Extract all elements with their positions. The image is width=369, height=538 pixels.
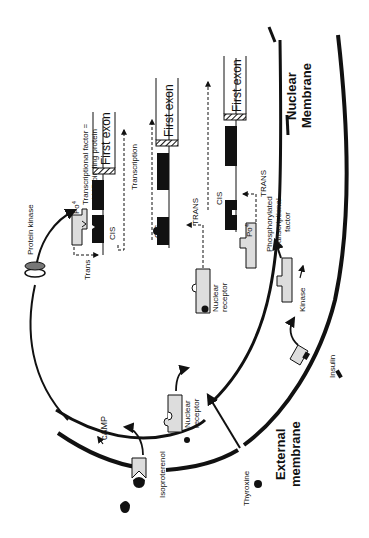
isoproterenol-molecule-bound [133,477,145,488]
nuclear-receptor-label-2a: Nuclear [211,284,220,312]
gene-1: First exon CIS Transcription [92,112,139,255]
trans-upper-label-1: TRANS [191,198,200,225]
gene-3-promoter-block [225,126,237,166]
insulin-label: Insulin [328,355,337,378]
gene-1-cis-element [92,215,104,243]
signaling-diagram: Protein kinase cAMP Isoproterenol Thyrox… [0,0,369,538]
thyroxine-near-receptor [184,437,190,443]
phospho-label-1: Phosphorylated [265,196,274,252]
nuclear-receptor-cytoplasmic [164,395,182,432]
phospho-label-2: transcriptional [274,198,283,248]
external-membrane-label-1: External [273,429,288,480]
po4-label-1: Po4 [71,200,81,214]
isoproterenol-label: Isoproterenol [158,451,167,498]
gene-1-promoter-block [92,180,104,210]
gene-3: First exon CIS TRANS [208,56,268,232]
phosphorylated-transcription-factor: Po4 Phosphorylated transcriptional facto… [240,194,292,268]
first-exon-label-2: First exon [162,84,176,137]
gene-2-promoter-block [157,153,169,190]
trans-upper-label-2: TRANS [259,170,268,197]
tf-label-1: Transcriptional factor = [81,123,90,205]
nuclear-membrane-label-2: Membrane [299,63,314,128]
cis-label-2: CIS [153,225,162,238]
cis-label-3: CIS [215,192,224,205]
kinase-label: Kinase [298,287,307,312]
kinase-enzyme [277,258,292,302]
protein-kinase: Protein kinase [25,204,45,277]
nuclear-receptor-label-1a: Nuclear [183,400,192,428]
external-membrane-label-2: membrane [288,421,303,487]
thyroxine-label: Thyroxine [242,470,251,506]
gene-3-cis-element [225,200,237,230]
phospho-label-3: factor [283,212,292,232]
nuclear-receptor-label-1b: receptor [192,398,201,428]
thyroxine-molecule [254,480,262,488]
first-exon-label-1: First exon [99,112,113,165]
cis-label-1: CIS [108,227,117,240]
protein-kinase-catalytic-subunit [25,262,45,270]
pka-pathway-curve [31,210,75,420]
isoproterenol-molecule [120,501,130,513]
nuclear-membrane-label-1: Nuclear [284,72,299,120]
transcription-label: Transcription [130,144,139,190]
camp-label: cAMP [99,416,109,440]
first-exon-label-3: First exon [230,59,244,112]
isoproterenol-receptor: cAMP Isoproterenol [98,416,167,513]
gene-2: First exon CIS TRANS [152,78,200,248]
nuclear-receptor-label-2b: receptor [220,282,229,312]
trans-lower-label: Trans [83,260,92,280]
protein-kinase-label: Protein kinase [26,204,35,255]
